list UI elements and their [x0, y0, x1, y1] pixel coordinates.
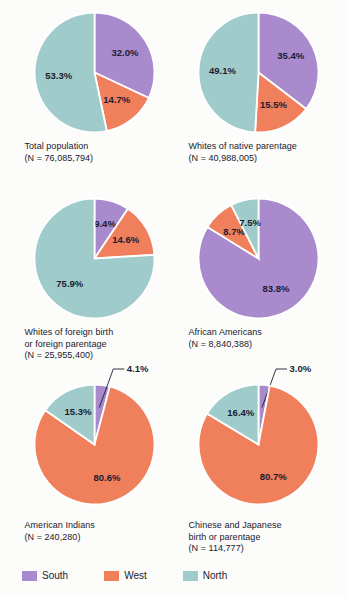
- pie-chart-grid: 32.0%14.7%53.3%Total population(N = 76,0…: [0, 0, 347, 558]
- pie-caption: Whites of foreign birthor foreign parent…: [25, 327, 165, 362]
- pie-graphic: 3.0%80.7%16.4%: [196, 382, 321, 514]
- legend-item-west[interactable]: West: [104, 570, 147, 581]
- slice-label-north: 15.3%: [64, 406, 91, 417]
- caption-line: (N = 40,988,005): [189, 153, 329, 165]
- pie-graphic: 35.4%15.5%49.1%: [196, 10, 321, 135]
- legend-label: North: [203, 570, 227, 581]
- pie-graphic: 9.4%14.6%75.9%: [32, 196, 157, 321]
- pie-svg: 83.8%8.7%7.5%: [196, 196, 321, 321]
- legend-label: South: [42, 570, 68, 581]
- pie-svg: 35.4%15.5%49.1%: [196, 10, 321, 135]
- slice-label-south: 35.4%: [277, 50, 304, 61]
- slice-label-north: 16.4%: [227, 407, 254, 418]
- legend-swatch-north: [183, 571, 198, 581]
- caption-line: (N = 240,280): [25, 532, 165, 544]
- caption-line: African Americans: [189, 327, 329, 339]
- pie-svg: 3.0%80.7%16.4%: [196, 382, 321, 507]
- pie-chart-chinese-japanese-birth-parentage: 3.0%80.7%16.4%Chinese and Japanesebirth …: [176, 382, 341, 555]
- pie-chart-whites-foreign-birth-parentage: 9.4%14.6%75.9%Whites of foreign birthor …: [12, 196, 177, 362]
- pie-caption: Total population(N = 76,085,794): [25, 141, 165, 164]
- callout-label-south: 3.0%: [290, 363, 312, 374]
- slice-label-south: 32.0%: [111, 47, 138, 58]
- caption-line: Chinese and Japanese: [189, 520, 329, 532]
- legend-item-north[interactable]: North: [183, 570, 227, 581]
- legend-swatch-west: [104, 571, 119, 581]
- pie-chart-figure: 32.0%14.7%53.3%Total population(N = 76,0…: [0, 0, 347, 597]
- legend-swatch-south: [22, 571, 37, 581]
- caption-line: or foreign parentage: [25, 339, 165, 351]
- pie-svg: 4.1%80.6%15.3%: [32, 382, 157, 507]
- pie-caption: Whites of native parentage(N = 40,988,00…: [189, 141, 329, 164]
- caption-line: (N = 114,777): [189, 543, 329, 555]
- callout-label-south: 4.1%: [127, 363, 149, 374]
- legend: SouthWestNorth: [22, 570, 227, 581]
- slice-label-north: 53.3%: [45, 70, 72, 81]
- pie-chart-whites-native-parentage: 35.4%15.5%49.1%Whites of native parentag…: [176, 10, 341, 164]
- legend-label: West: [124, 570, 147, 581]
- caption-line: Whites of native parentage: [189, 141, 329, 153]
- pie-caption: American Indians(N = 240,280): [25, 520, 165, 543]
- slice-label-west: 15.5%: [260, 99, 287, 110]
- pie-graphic: 83.8%8.7%7.5%: [196, 196, 321, 321]
- pie-graphic: 32.0%14.7%53.3%: [32, 10, 157, 135]
- slice-label-west: 80.7%: [260, 471, 287, 482]
- pie-caption: Chinese and Japanesebirth or parentage(N…: [189, 520, 329, 555]
- slice-label-north: 7.5%: [239, 217, 261, 228]
- pie-svg: 32.0%14.7%53.3%: [32, 10, 157, 135]
- slice-label-west: 14.7%: [103, 94, 130, 105]
- slice-label-south: 83.8%: [263, 283, 290, 294]
- slice-label-north: 49.1%: [209, 65, 236, 76]
- pie-caption: African Americans(N = 8,840,388): [189, 327, 329, 350]
- caption-line: (N = 8,840,388): [189, 339, 329, 351]
- slice-label-north: 75.9%: [56, 278, 83, 289]
- caption-line: Total population: [25, 141, 165, 153]
- caption-line: birth or parentage: [189, 532, 329, 544]
- slice-label-south: 9.4%: [94, 218, 116, 229]
- caption-line: (N = 76,085,794): [25, 153, 165, 165]
- pie-chart-african-americans: 83.8%8.7%7.5%African Americans(N = 8,840…: [176, 196, 341, 350]
- legend-item-south[interactable]: South: [22, 570, 68, 581]
- caption-line: Whites of foreign birth: [25, 327, 165, 339]
- caption-line: American Indians: [25, 520, 165, 532]
- slice-label-west: 14.6%: [112, 234, 139, 245]
- caption-line: (N = 25,955,400): [25, 350, 165, 362]
- pie-graphic: 4.1%80.6%15.3%: [32, 382, 157, 514]
- slice-label-west: 80.6%: [93, 472, 120, 483]
- pie-svg: 9.4%14.6%75.9%: [32, 196, 157, 321]
- pie-chart-total-population: 32.0%14.7%53.3%Total population(N = 76,0…: [12, 10, 177, 164]
- pie-chart-american-indians: 4.1%80.6%15.3%American Indians(N = 240,2…: [12, 382, 177, 543]
